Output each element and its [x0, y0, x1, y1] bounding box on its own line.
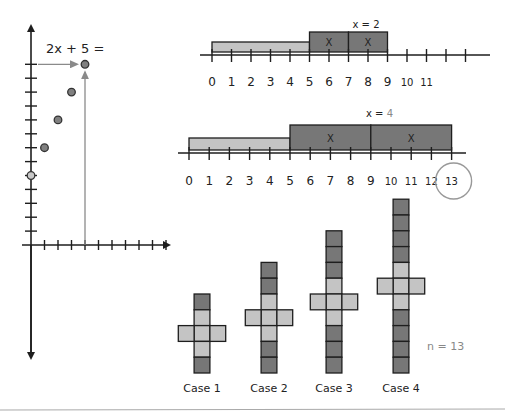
graph-ticks: [25, 64, 166, 250]
data-point: [81, 61, 89, 69]
number-line-label: 9: [384, 75, 392, 89]
number-line-label: 11: [420, 77, 433, 88]
tile-cases: Case 1Case 2Case 3Case 4: [178, 199, 424, 395]
number-line-label: 2: [247, 75, 255, 89]
number-line-label: 8: [364, 75, 372, 89]
result-label: n = 13: [427, 340, 464, 353]
number-line-label: 9: [367, 174, 375, 188]
constant-bar: [189, 138, 290, 150]
number-line-1-body: XX01234567891011: [200, 32, 490, 89]
case-2: Case 2: [245, 262, 292, 395]
left-arm-tile: [310, 294, 326, 310]
light-tile: [261, 310, 277, 326]
dark-tile: [393, 231, 409, 247]
light-tile: [393, 262, 409, 278]
data-point: [68, 88, 76, 96]
left-arm-tile: [178, 326, 194, 342]
data-point: [54, 116, 62, 124]
dark-tile: [261, 341, 277, 357]
right-arm-tile: [277, 310, 293, 326]
right-arm-tile: [409, 278, 425, 294]
number-line-label: 8: [347, 174, 355, 188]
number-line-label: 13: [445, 176, 458, 187]
light-tile: [261, 326, 277, 342]
dark-tile: [194, 357, 210, 373]
number-line-x-equals-4: x = 4 XX012345678910111213: [178, 108, 472, 199]
number-line-label: 6: [325, 75, 333, 89]
number-line-label: 0: [185, 174, 193, 188]
y-intercept-point: [27, 172, 35, 180]
case-label: Case 4: [382, 382, 419, 395]
number-line-label: 1: [205, 174, 213, 188]
dark-tile: [393, 326, 409, 342]
light-tile: [326, 278, 342, 294]
number-line-label: 11: [405, 176, 418, 187]
left-arm-tile: [377, 278, 393, 294]
number-line-2-title: x = 4: [366, 108, 393, 119]
number-line-label: 3: [267, 75, 275, 89]
dark-tile: [393, 215, 409, 231]
number-line-label: 7: [327, 174, 335, 188]
light-tile: [194, 326, 210, 342]
dark-tile: [326, 357, 342, 373]
number-line-label: 6: [306, 174, 314, 188]
dark-tile: [326, 262, 342, 278]
graph-axes: [22, 26, 169, 358]
number-line-x-equals-2: x = 2 XX01234567891011: [200, 19, 490, 89]
case-1: Case 1: [178, 294, 225, 395]
case-label: Case 3: [315, 382, 352, 395]
number-line-label: 7: [345, 75, 353, 89]
expression-label: 2x + 5 =: [46, 41, 104, 56]
light-tile: [326, 294, 342, 310]
case-3: Case 3: [310, 231, 357, 395]
number-line-label: 5: [306, 75, 314, 89]
light-tile: [261, 294, 277, 310]
dark-tile: [326, 231, 342, 247]
x-bar-label: X: [327, 133, 334, 144]
number-line-label: 3: [246, 174, 254, 188]
dark-tile: [261, 357, 277, 373]
right-arm-tile: [342, 294, 358, 310]
dark-tile: [261, 262, 277, 278]
x-bar-label: X: [408, 133, 415, 144]
title-value: 4: [387, 108, 393, 119]
bottom-divider: [0, 409, 505, 410]
coordinate-graph: 2x + 5 =: [22, 26, 169, 358]
dark-tile: [194, 294, 210, 310]
dark-tile: [326, 326, 342, 342]
dark-tile: [393, 199, 409, 215]
number-line-label: 2: [226, 174, 234, 188]
dark-tile: [393, 310, 409, 326]
light-tile: [194, 341, 210, 357]
constant-bar: [212, 42, 310, 52]
case-label: Case 2: [250, 382, 287, 395]
number-line-2-body: XX012345678910111213: [178, 125, 472, 199]
light-tile: [194, 310, 210, 326]
data-point: [41, 144, 49, 152]
dark-tile: [326, 247, 342, 263]
number-line-label: 1: [228, 75, 236, 89]
number-line-label: 4: [286, 75, 294, 89]
linear-pattern-diagram: 2x + 5 = x = 2 XX01234567891011 x = 4 XX…: [0, 0, 505, 417]
light-tile: [326, 310, 342, 326]
dark-tile: [393, 357, 409, 373]
number-line-label: 10: [385, 176, 398, 187]
x-bar-label: X: [365, 37, 372, 48]
number-line-label: 10: [401, 77, 414, 88]
dark-tile: [393, 247, 409, 263]
dark-tile: [261, 278, 277, 294]
x-bar-label: X: [326, 37, 333, 48]
dark-tile: [326, 341, 342, 357]
left-arm-tile: [245, 310, 261, 326]
number-line-label: 5: [286, 174, 294, 188]
guide-arrows: [38, 64, 85, 245]
case-label: Case 1: [183, 382, 220, 395]
dark-tile: [393, 341, 409, 357]
light-tile: [393, 278, 409, 294]
title-prefix: x =: [366, 108, 387, 119]
number-line-1-title: x = 2: [352, 19, 379, 30]
case-4: Case 4: [377, 199, 424, 395]
light-tile: [393, 294, 409, 310]
right-arm-tile: [210, 326, 226, 342]
number-line-label: 4: [266, 174, 274, 188]
